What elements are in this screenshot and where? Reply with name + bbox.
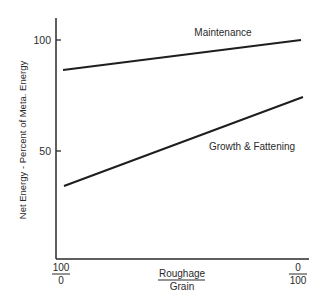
x-tick-right-numerator: 0 (295, 262, 301, 273)
series-maintenance-line (63, 40, 301, 70)
y-axis-label: Net Energy - Percent of Meta. Energy (17, 61, 28, 220)
chart: 100 50 Net Energy - Percent of Meta. Ene… (0, 0, 321, 303)
series-maintenance-label: Maintenance (194, 27, 252, 38)
x-tick-left-numerator: 100 (53, 262, 70, 273)
x-tick-left-denominator: 0 (58, 275, 64, 286)
x-tick-right-denominator: 100 (290, 275, 307, 286)
y-tick-label-50: 50 (39, 145, 51, 157)
x-axis-label-numerator: Roughage (159, 268, 206, 279)
y-tick-label-100: 100 (33, 34, 51, 46)
series-growth-label: Growth & Fattening (209, 141, 295, 152)
x-axis-label-denominator: Grain (170, 281, 194, 292)
